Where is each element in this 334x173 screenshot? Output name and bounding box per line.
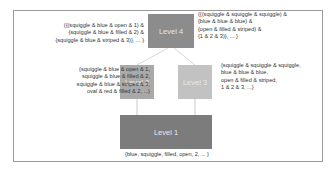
level-4-label: Level 4 bbox=[159, 27, 183, 36]
level-4-left-annotation: ({(squiggle & blue & open & 1) & {squigg… bbox=[55, 22, 144, 44]
level-4-box: Level 4 bbox=[148, 14, 194, 48]
level-3-label: Level 3 bbox=[183, 78, 207, 87]
level-3-annotation: {squiggle & squiggle & squiggle, blue & … bbox=[221, 62, 301, 91]
level-1-box: Level 1 bbox=[120, 115, 212, 149]
edge-level3-level4 bbox=[174, 48, 195, 65]
level-3-box: Level 3 bbox=[178, 65, 212, 99]
level-2-annotation: {squiggle & blue & open & 1, squiggle & … bbox=[77, 66, 150, 95]
level-1-annotation: {blue, squiggle, filled, open, 2, ... } bbox=[0, 151, 334, 158]
level-1-label: Level 1 bbox=[154, 128, 178, 137]
level-4-right-annotation: ({(squiggle & squiggle & squiggle) & {bl… bbox=[198, 11, 287, 40]
edge-level2-level4 bbox=[137, 48, 168, 65]
